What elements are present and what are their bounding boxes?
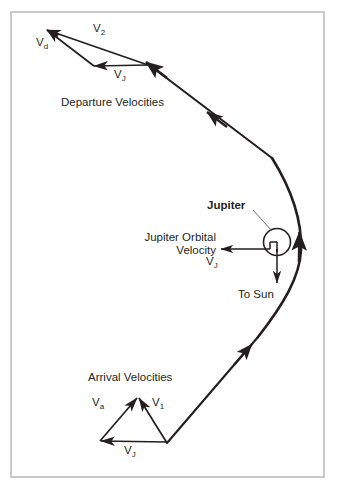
jupiter-label: Jupiter: [207, 199, 245, 212]
vector-label-vj-departure: VJ: [114, 68, 126, 81]
jupiter-orbital-velocity-line2: Velocity: [130, 244, 216, 257]
arrival-velocities-caption: Arrival Velocities: [88, 371, 172, 384]
vector-label-vd: Vd: [36, 36, 48, 49]
jupiter-leader-line: [253, 210, 272, 231]
vector-label-vj-arrival: VJ: [124, 444, 136, 457]
vector-label-v1: V1: [152, 396, 164, 409]
vector-label-va: Va: [92, 396, 104, 409]
figure-canvas: Vd V2 VJ Departure Velocities Jupiter Ju…: [0, 0, 341, 491]
vector-label-v2: V2: [93, 22, 105, 35]
vector-label-vj-orbital: VJ: [206, 255, 218, 268]
to-sun-label: To Sun: [238, 288, 274, 301]
jupiter-orbital-velocity-label: Jupiter Orbital Velocity: [130, 231, 216, 257]
departure-velocities-caption: Departure Velocities: [61, 96, 164, 109]
departure-velocity-triangle: [47, 30, 148, 66]
trajectory-direction-arrows: [146, 62, 300, 365]
jupiter-orbital-velocity-line1: Jupiter Orbital: [130, 231, 216, 244]
